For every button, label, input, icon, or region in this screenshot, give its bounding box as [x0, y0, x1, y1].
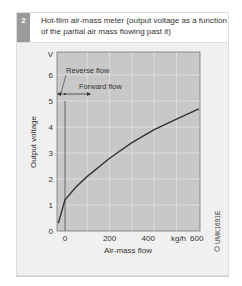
y-axis-label: Output voltage: [29, 115, 38, 168]
reverse-flow-label: Reverse flow: [66, 66, 110, 75]
svg-text:kg/h: kg/h: [171, 234, 186, 243]
plot-area: [57, 52, 200, 231]
svg-text:200: 200: [103, 234, 117, 243]
svg-text:1: 1: [49, 201, 54, 210]
svg-text:3: 3: [49, 149, 54, 158]
svg-text:400: 400: [142, 234, 156, 243]
svg-text:6: 6: [49, 71, 54, 80]
x-tick-labels: 0200400kg/h600: [63, 234, 204, 243]
svg-text:5: 5: [49, 97, 54, 106]
svg-text:0: 0: [63, 234, 68, 243]
divider: [16, 276, 229, 277]
y-tick-labels: 0123456V: [48, 50, 54, 236]
figure-code: UMK1691E: [214, 210, 221, 244]
svg-text:4: 4: [49, 123, 54, 132]
svg-text:600: 600: [190, 234, 204, 243]
x-axis-label: Air-mass flow: [104, 246, 152, 255]
bosch-logo-icon: [215, 247, 220, 252]
svg-text:2: 2: [49, 175, 54, 184]
svg-text:0: 0: [49, 227, 54, 236]
svg-text:V: V: [48, 50, 54, 59]
chart: 0123456V 0200400kg/h600 Reverse flow For…: [0, 0, 242, 286]
zero-dot: [64, 93, 66, 95]
forward-flow-label: Forward flow: [79, 82, 123, 91]
